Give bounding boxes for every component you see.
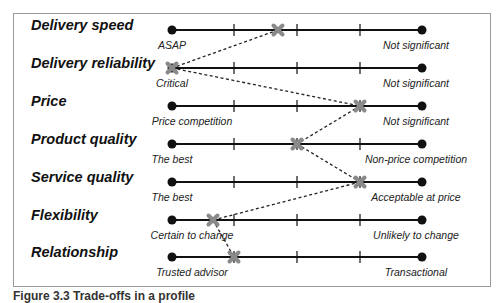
- profile-connector: [172, 30, 278, 68]
- right-pole-label: Transactional: [385, 266, 447, 278]
- row-label: Price: [31, 93, 66, 109]
- figure-caption: Figure 3.3 Trade-offs in a profile: [13, 289, 195, 303]
- profile-connector: [297, 144, 360, 182]
- right-pole-label: Not significant: [383, 77, 449, 89]
- left-end-dot: [168, 26, 177, 35]
- row-label: Product quality: [31, 131, 137, 147]
- right-end-dot: [418, 64, 427, 73]
- right-pole-label: Not significant: [383, 39, 449, 51]
- row-label: Delivery reliability: [31, 55, 155, 71]
- right-end-dot: [418, 178, 427, 187]
- row-label: Flexibility: [31, 207, 98, 223]
- left-end-dot: [168, 102, 177, 111]
- right-pole-label: Acceptable at price: [371, 191, 460, 203]
- left-pole-label: Price competition: [152, 115, 233, 127]
- left-pole-label: Certain to change: [151, 229, 234, 241]
- left-pole-label: ASAP: [158, 39, 186, 51]
- right-end-dot: [418, 140, 427, 149]
- right-pole-label: Non-price competition: [365, 153, 467, 165]
- left-end-dot: [168, 140, 177, 149]
- right-end-dot: [418, 216, 427, 225]
- left-pole-label: Critical: [156, 77, 188, 89]
- right-end-dot: [418, 253, 427, 262]
- profile-connector: [297, 106, 360, 144]
- left-end-dot: [168, 216, 177, 225]
- profile-connector: [172, 68, 360, 106]
- left-pole-label: The best: [152, 191, 193, 203]
- row-label: Relationship: [31, 244, 118, 260]
- left-end-dot: [168, 178, 177, 187]
- right-pole-label: Unlikely to change: [373, 229, 459, 241]
- right-pole-label: Not significant: [383, 115, 449, 127]
- profile-connector: [213, 182, 360, 220]
- row-label: Delivery speed: [31, 17, 133, 33]
- right-end-dot: [418, 26, 427, 35]
- right-end-dot: [418, 102, 427, 111]
- left-pole-label: Trusted advisor: [156, 266, 228, 278]
- left-pole-label: The best: [152, 153, 193, 165]
- left-end-dot: [168, 253, 177, 262]
- row-label: Service quality: [31, 169, 133, 185]
